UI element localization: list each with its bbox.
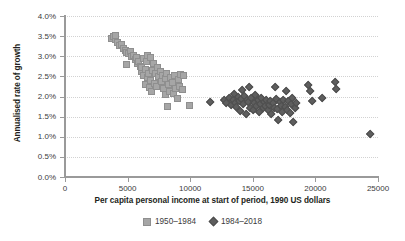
x-axis-line (65, 176, 379, 178)
y-axis-tick (60, 177, 64, 178)
data-point-series-1 (179, 86, 186, 93)
legend-item-label: 1984–2018 (221, 217, 262, 226)
x-axis-tick-label: 5000 (105, 184, 151, 193)
y-axis-tick-label: 3.5% (26, 32, 56, 41)
gridline (65, 76, 378, 77)
x-axis-tick (253, 178, 254, 182)
y-axis-tick (60, 117, 64, 118)
data-point-series-2 (308, 96, 317, 105)
y-axis-tick (60, 76, 64, 77)
x-axis-tick (190, 178, 191, 182)
data-point-series-1 (186, 102, 193, 109)
y-axis-tick-label: 2.0% (26, 92, 56, 101)
x-axis-tick (128, 178, 129, 182)
legend-diamond-icon (209, 217, 219, 227)
legend-item-1[interactable]: 1950–1984 (143, 217, 196, 226)
y-axis-tick-label: 0.5% (26, 152, 56, 161)
x-axis-tick-label: 25000 (355, 184, 401, 193)
data-point-series-1 (174, 95, 181, 102)
plot-area (65, 16, 378, 177)
scatter-chart: Annualised rate of growth 0.0%0.5%1.0%1.… (0, 0, 405, 241)
gridline (65, 56, 378, 57)
data-point-series-2 (270, 83, 279, 92)
data-point-series-2 (206, 97, 215, 106)
x-axis-title: Per capita personal income at start of p… (40, 196, 385, 205)
gridline (65, 137, 378, 138)
y-axis-tick-label: 1.5% (26, 112, 56, 121)
x-axis-tick-label: 0 (42, 184, 88, 193)
chart-legend: 1950–19841984–2018 (0, 217, 405, 226)
gridline (65, 16, 378, 17)
gridline (65, 117, 378, 118)
y-axis-title: Annualised rate of growth (11, 18, 25, 168)
y-axis-tick-label: 3.0% (26, 52, 56, 61)
data-point-series-1 (180, 72, 187, 79)
data-point-series-1 (164, 103, 171, 110)
legend-item-2[interactable]: 1984–2018 (210, 217, 262, 226)
data-point-series-2 (332, 85, 341, 94)
x-axis-tick (378, 178, 379, 182)
y-axis-tick (60, 16, 64, 17)
x-axis-tick-label: 15000 (230, 184, 276, 193)
x-axis-tick (315, 178, 316, 182)
y-axis-tick-label: 0.0% (26, 173, 56, 182)
y-axis-tick-label: 2.5% (26, 72, 56, 81)
x-axis-tick-label: 10000 (167, 184, 213, 193)
data-point-series-2 (318, 93, 327, 102)
legend-square-icon (143, 218, 151, 226)
y-axis-tick (60, 97, 64, 98)
gridline (65, 157, 378, 158)
legend-item-label: 1950–1984 (155, 217, 196, 226)
data-point-series-1 (123, 61, 130, 68)
y-axis-tick-label: 1.0% (26, 132, 56, 141)
data-point-series-2 (289, 118, 298, 127)
y-axis-tick (60, 56, 64, 57)
y-axis-tick (60, 36, 64, 37)
y-axis-tick (60, 137, 64, 138)
y-axis-tick (60, 157, 64, 158)
x-axis-tick (65, 178, 66, 182)
y-axis-tick-label: 4.0% (26, 12, 56, 21)
x-axis-tick-label: 20000 (292, 184, 338, 193)
data-point-series-1 (112, 32, 119, 39)
y-axis-line (64, 15, 66, 178)
